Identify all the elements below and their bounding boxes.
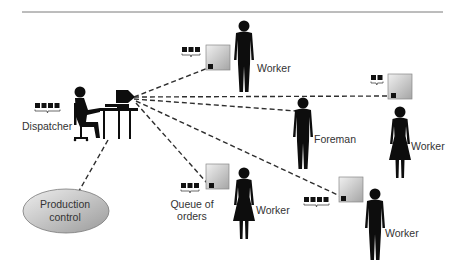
machine-right-queue [371, 75, 383, 85]
line-to-foreman [134, 99, 296, 111]
worker-bottom-mid-label: Worker [256, 204, 290, 216]
diagram-canvas: Dispatcher Production control Worker [0, 0, 462, 274]
foreman-label: Foreman [314, 133, 356, 145]
dispatcher-label: Dispatcher [22, 120, 73, 132]
worker-bottom-right-figure [365, 189, 385, 261]
machine-right-job [391, 93, 396, 98]
queue-label-1: Queue of [170, 198, 213, 210]
machine-bottom-right-queue [304, 197, 329, 207]
production-control-label-2: control [49, 211, 81, 223]
worker-top-figure [234, 21, 254, 93]
worker-bottom-mid-figure [233, 168, 255, 240]
production-control-label-1: Production [40, 198, 90, 210]
foreman-figure [293, 98, 313, 170]
machine-top-job [208, 64, 213, 69]
line-to-production-control [79, 140, 108, 191]
queue-label-2: orders [177, 210, 207, 222]
dispatcher-queue [35, 103, 60, 113]
line-to-mid-machine [136, 103, 207, 183]
machine-bottom-right-job [341, 196, 346, 201]
worker-bottom-right-label: Worker [385, 227, 419, 239]
dispatcher-figure [74, 87, 138, 142]
line-to-top-machine [134, 68, 208, 97]
machine-top-queue [182, 47, 200, 57]
line-to-right-machine [134, 96, 392, 97]
worker-right-figure [389, 107, 411, 179]
machine-mid-queue [181, 183, 199, 193]
worker-right-label: Worker [411, 140, 445, 152]
machine-mid-job [209, 183, 214, 188]
worker-top-label: Worker [257, 62, 291, 74]
